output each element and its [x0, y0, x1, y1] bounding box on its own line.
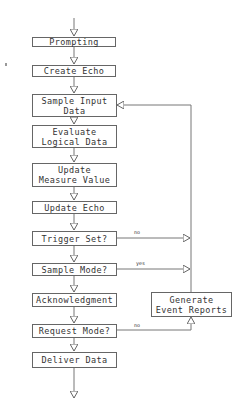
edge-label-request-no: no — [134, 322, 140, 328]
node-sample-mode: Sample Mode? — [32, 263, 117, 276]
edge-label-sample-yes: yes — [136, 260, 145, 266]
node-sample-input-data: Sample Input Data — [32, 94, 117, 117]
node-label: Deliver Data — [41, 355, 107, 365]
node-request-mode: Request Mode? — [32, 324, 117, 338]
node-deliver-data: Deliver Data — [32, 352, 117, 368]
node-label: Update Measure Value — [39, 165, 111, 185]
node-generate-event-reports: Generate Event Reports — [151, 292, 232, 317]
node-trigger-set: Trigger Set? — [32, 231, 117, 246]
node-label: Create Echo — [44, 66, 105, 76]
node-create-echo: Create Echo — [32, 65, 116, 77]
node-label: Evaluate Logical Data — [41, 127, 107, 147]
node-label: Acknowledgment — [36, 295, 113, 305]
node-acknowledgment: Acknowledgment — [32, 293, 117, 307]
node-update-measure-value: Update Measure Value — [32, 163, 117, 187]
node-label: Prompting — [49, 37, 99, 47]
node-label: Request Mode? — [39, 326, 111, 336]
node-label: Sample Input Data — [41, 96, 107, 116]
node-prompting: Prompting — [32, 37, 116, 47]
node-label: Update Echo — [44, 203, 105, 213]
node-label: Generate Event Reports — [156, 295, 228, 315]
node-label: Trigger Set? — [41, 234, 107, 244]
node-evaluate-logical-data: Evaluate Logical Data — [32, 125, 117, 148]
node-update-echo: Update Echo — [32, 201, 117, 214]
node-label: Sample Mode? — [41, 265, 107, 275]
edge-label-trigger-no: no — [134, 229, 140, 235]
